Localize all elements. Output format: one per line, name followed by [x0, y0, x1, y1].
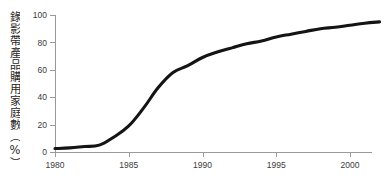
- y-tick-label: 40: [38, 92, 48, 102]
- chart-plot: 020406080100 19801985199019952000: [0, 0, 384, 186]
- x-tick-label: 1995: [267, 160, 286, 170]
- x-tick-label: 1980: [46, 160, 65, 170]
- y-axis-ticks: 020406080100: [33, 10, 55, 157]
- y-axis-label: 錄影帶產品購用家庭數（%）: [3, 11, 20, 161]
- x-tick-label: 2000: [341, 160, 360, 170]
- chart-container: 錄影帶產品購用家庭數（%） 020406080100 1980198519901…: [0, 0, 384, 186]
- y-tick-label: 20: [38, 120, 48, 130]
- x-tick-label: 1990: [193, 160, 212, 170]
- x-tick-label: 1985: [119, 160, 138, 170]
- y-tick-label: 60: [38, 65, 48, 75]
- x-axis-ticks: 19801985199019952000: [46, 152, 360, 170]
- data-series-line: [55, 22, 380, 149]
- y-tick-label: 0: [42, 147, 47, 157]
- y-tick-label: 80: [38, 38, 48, 48]
- y-tick-label: 100: [33, 10, 47, 20]
